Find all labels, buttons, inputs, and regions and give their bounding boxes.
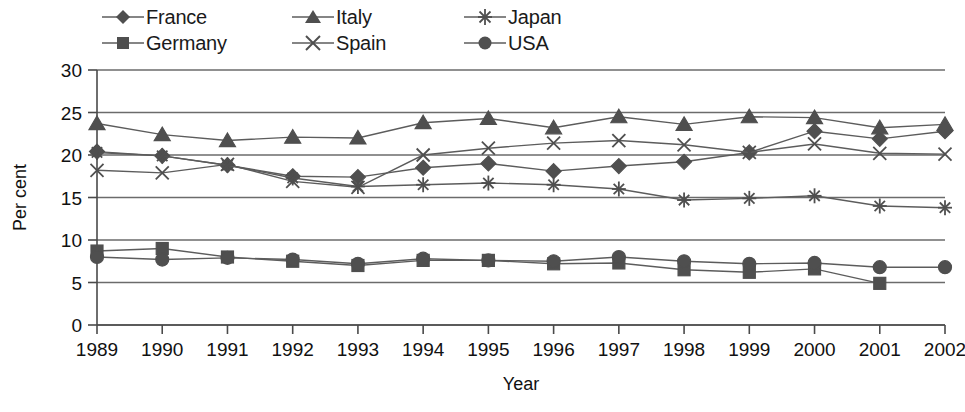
- y-axis-ticks: 051015202530: [61, 60, 97, 336]
- data-point: [221, 251, 234, 264]
- x-tick-label: 1992: [272, 339, 314, 360]
- data-point: [286, 253, 299, 266]
- data-point: [220, 158, 234, 173]
- chart-figure: France Italy: [0, 0, 965, 412]
- y-tick-label: 30: [61, 60, 82, 81]
- y-tick-label: 5: [71, 273, 82, 294]
- data-point: [938, 200, 952, 215]
- chart-legend: France Italy: [100, 4, 720, 56]
- data-point: [89, 116, 105, 130]
- legend-row: Germany Spain USA: [100, 30, 720, 56]
- legend-item-germany: Germany: [100, 30, 290, 56]
- legend-label: Japan: [508, 6, 562, 28]
- legend-label: Germany: [146, 32, 227, 54]
- data-point: [481, 156, 496, 171]
- data-point: [677, 154, 692, 169]
- data-point: [677, 193, 691, 208]
- x-tick-label: 1997: [598, 339, 640, 360]
- data-point: [286, 170, 300, 185]
- data-point: [743, 257, 756, 270]
- data-point: [873, 261, 886, 274]
- data-point: [547, 177, 561, 192]
- data-point: [351, 257, 364, 270]
- chart-plot-area: 051015202530 198919901991199219931994199…: [0, 56, 965, 412]
- legend-item-france: France: [100, 4, 290, 30]
- x-tick-label: 1998: [663, 339, 705, 360]
- legend-label: USA: [508, 32, 549, 54]
- data-point: [874, 277, 886, 289]
- legend-label: Spain: [336, 32, 386, 54]
- data-point: [808, 188, 822, 203]
- data-point: [155, 148, 169, 163]
- x-tick-label: 1999: [728, 339, 770, 360]
- data-point: [742, 191, 756, 206]
- legend-label: Italy: [336, 6, 372, 28]
- legend-label: France: [146, 6, 207, 28]
- x-axis-title: Year: [503, 374, 539, 394]
- data-point: [416, 177, 430, 192]
- data-point: [741, 109, 757, 123]
- diamond-icon: [100, 6, 146, 28]
- data-point: [546, 164, 561, 179]
- data-point: [611, 159, 626, 174]
- data-point: [678, 255, 691, 268]
- data-point: [808, 256, 821, 269]
- gridlines: [97, 70, 945, 325]
- data-point: [417, 252, 430, 265]
- legend-item-usa: USA: [462, 30, 622, 56]
- data-point: [612, 251, 625, 264]
- x-tick-label: 2001: [859, 339, 901, 360]
- x-tick-label: 1993: [337, 339, 379, 360]
- x-tick-label: 1991: [206, 339, 248, 360]
- data-point: [611, 109, 627, 123]
- circle-icon: [462, 32, 508, 54]
- y-tick-label: 15: [61, 188, 82, 209]
- x-tick-label: 1996: [532, 339, 574, 360]
- cross-x-icon: [290, 32, 336, 54]
- data-point: [939, 261, 952, 274]
- data-point: [156, 253, 169, 266]
- x-tick-label: 2000: [793, 339, 835, 360]
- y-tick-label: 0: [71, 315, 82, 336]
- y-tick-label: 10: [61, 230, 82, 251]
- x-tick-label: 1989: [76, 339, 118, 360]
- series-france: [90, 124, 953, 185]
- data-point: [416, 160, 431, 175]
- data-point: [547, 255, 560, 268]
- asterisk-icon: [462, 6, 508, 28]
- data-point: [481, 176, 495, 191]
- legend-item-italy: Italy: [290, 4, 462, 30]
- y-axis-title: Per cent: [10, 164, 30, 231]
- triangle-icon: [290, 6, 336, 28]
- data-point: [807, 124, 822, 139]
- x-tick-label: 1990: [141, 339, 183, 360]
- data-point: [91, 251, 104, 264]
- data-point: [351, 179, 365, 194]
- legend-row: France Italy: [100, 4, 720, 30]
- data-point: [612, 182, 626, 197]
- data-point: [937, 117, 953, 130]
- legend-item-japan: Japan: [462, 4, 622, 30]
- x-tick-label: 2002: [924, 339, 965, 360]
- x-axis-ticks: 1989199019911992199319941995199619971998…: [76, 325, 965, 360]
- legend-item-spain: Spain: [290, 30, 462, 56]
- square-icon: [100, 32, 146, 54]
- y-tick-label: 25: [61, 103, 82, 124]
- series-italy: [89, 109, 953, 146]
- data-point: [90, 145, 104, 160]
- data-point: [285, 130, 301, 144]
- x-tick-label: 1995: [467, 339, 509, 360]
- x-tick-label: 1994: [402, 339, 445, 360]
- data-point: [482, 254, 495, 267]
- y-tick-label: 20: [61, 145, 82, 166]
- line-chart-svg: 051015202530 198919901991199219931994199…: [0, 56, 965, 412]
- data-series-layer: [89, 109, 953, 289]
- data-point: [873, 199, 887, 214]
